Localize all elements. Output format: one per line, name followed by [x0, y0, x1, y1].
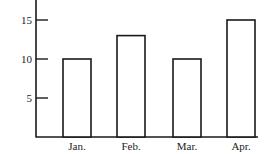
bar-mar	[173, 59, 201, 137]
y-tick-label: 10	[21, 53, 33, 65]
x-category-label: Feb.	[121, 140, 141, 152]
bar-feb	[117, 36, 145, 137]
x-category-label: Jan.	[68, 140, 86, 152]
bar-apr	[227, 20, 255, 137]
y-tick-label: 15	[21, 14, 33, 26]
y-ticks: 51015	[21, 14, 48, 104]
x-labels: Jan.Feb.Mar.Apr.	[68, 140, 251, 152]
bar-jan	[63, 59, 91, 137]
bar-chart: 51015 Jan.Feb.Mar.Apr.	[0, 0, 275, 154]
y-tick-label: 5	[27, 92, 33, 104]
x-category-label: Apr.	[231, 140, 251, 152]
bars	[63, 20, 255, 137]
x-category-label: Mar.	[177, 140, 198, 152]
